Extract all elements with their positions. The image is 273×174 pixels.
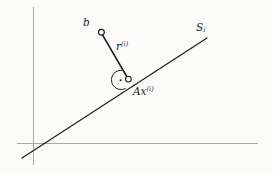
label-projection: Ax(i) <box>133 86 154 97</box>
label-b-text: b <box>83 16 90 28</box>
projection-diagram: b r(i) Ax(i) Si <box>0 0 273 174</box>
right-angle-arc-icon <box>111 70 125 89</box>
point-ax-marker <box>125 76 131 82</box>
label-r-superscript: (i) <box>121 40 128 48</box>
label-s-subscript: i <box>203 26 205 34</box>
label-subspace: Si <box>196 22 205 33</box>
label-ax-base: Ax <box>133 85 147 97</box>
label-point-b: b <box>83 17 90 28</box>
label-ax-superscript: (i) <box>147 85 154 93</box>
label-residual: r(i) <box>116 41 128 52</box>
point-b-marker <box>99 29 105 35</box>
right-angle-dot-icon <box>120 79 122 81</box>
